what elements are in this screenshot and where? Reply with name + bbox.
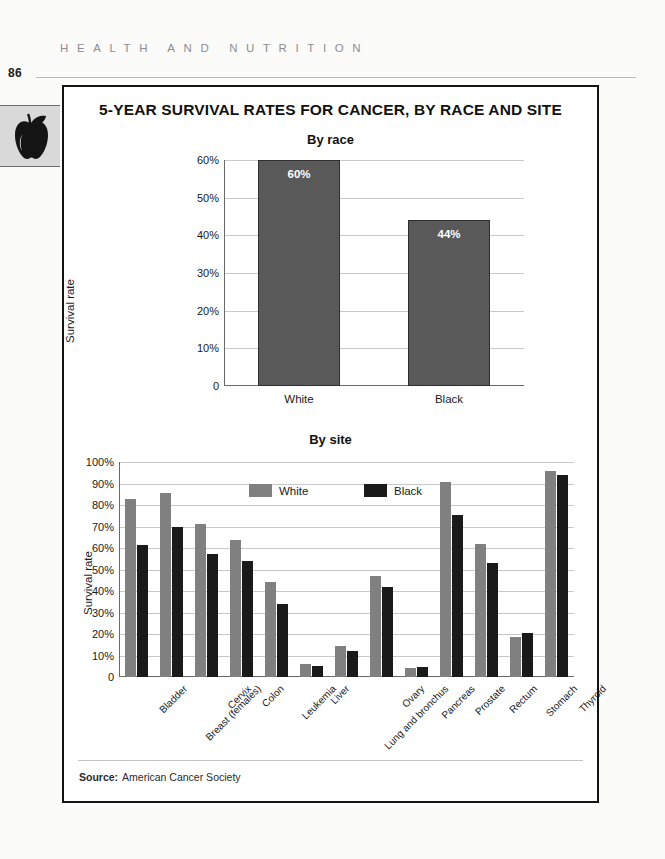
bar <box>510 637 522 677</box>
bar <box>277 604 289 677</box>
bar <box>160 493 172 677</box>
bar <box>347 651 359 677</box>
y-axis-tick-label: 30% <box>92 607 114 619</box>
figure-title: 5-YEAR SURVIVAL RATES FOR CANCER, BY RAC… <box>64 101 597 119</box>
legend-item: White <box>249 484 308 497</box>
bar <box>265 582 277 677</box>
y-axis-tick-label: 30% <box>197 267 219 279</box>
bar: 44% <box>408 220 490 386</box>
legend-item: Black <box>364 484 422 497</box>
y-axis-line <box>224 160 225 386</box>
figure-container: 5-YEAR SURVIVAL RATES FOR CANCER, BY RAC… <box>62 85 599 803</box>
bar <box>417 667 429 677</box>
bar-value-label: 44% <box>409 228 489 240</box>
y-axis-tick-label: 70% <box>92 521 114 533</box>
bar: 60% <box>258 160 340 386</box>
source-rule <box>78 760 583 761</box>
y-axis-tick-label: 0 <box>108 671 114 683</box>
x-axis-category-label: Thyroid <box>576 683 607 714</box>
y-axis-tick-label: 10% <box>92 650 114 662</box>
source-text: American Cancer Society <box>122 771 240 783</box>
bar <box>125 499 137 677</box>
running-head: HEALTH AND NUTRITION <box>60 42 369 54</box>
gridline <box>119 548 574 549</box>
bar <box>452 515 464 677</box>
x-axis-category-label: Prostate <box>472 683 506 717</box>
gridline <box>119 505 574 506</box>
bar <box>545 471 557 677</box>
bar <box>557 475 569 677</box>
page-number: 86 <box>8 66 22 80</box>
gridline <box>119 527 574 528</box>
gridline <box>119 462 574 463</box>
bar <box>405 668 417 677</box>
bar <box>230 540 242 677</box>
gridline <box>119 634 574 635</box>
legend-swatch <box>249 484 272 497</box>
gridline <box>119 613 574 614</box>
bar <box>487 563 499 677</box>
x-axis-category-label: Rectum <box>507 683 539 715</box>
chart-by-site-plot: 010%20%30%40%50%60%70%80%90%100%BladderB… <box>119 462 574 677</box>
x-axis-category-label: White <box>224 393 374 405</box>
x-axis-category-label: Stomach <box>543 683 579 719</box>
y-axis-line <box>119 462 120 677</box>
x-axis-category-label: Bladder <box>157 683 189 715</box>
chart-by-race-ylabel: Survival rate <box>64 279 76 343</box>
bar <box>475 544 487 677</box>
legend-label: White <box>279 485 308 497</box>
bar <box>522 633 534 677</box>
chart-by-race-plot: 010%20%30%40%50%60%60%White44%Black <box>224 160 524 386</box>
bar <box>195 524 207 677</box>
y-axis-tick-label: 50% <box>197 192 219 204</box>
y-axis-tick-label: 60% <box>197 154 219 166</box>
y-axis-tick-label: 50% <box>92 564 114 576</box>
bar <box>137 545 149 677</box>
header-rule <box>36 77 636 78</box>
bar <box>370 576 382 677</box>
y-axis-tick-label: 0 <box>213 380 219 392</box>
bar <box>172 527 184 678</box>
x-axis-category-label: Colon <box>259 683 285 709</box>
x-axis-category-label: Breast (females) <box>203 683 263 743</box>
y-axis-tick-label: 10% <box>197 342 219 354</box>
bar <box>382 587 394 677</box>
gridline <box>119 591 574 592</box>
bar <box>300 664 312 677</box>
legend-label: Black <box>394 485 422 497</box>
y-axis-tick-label: 40% <box>197 229 219 241</box>
source-note: Source:American Cancer Society <box>79 771 241 783</box>
y-axis-tick-label: 20% <box>92 628 114 640</box>
bar <box>335 646 347 677</box>
y-axis-tick-label: 20% <box>197 305 219 317</box>
gridline <box>119 570 574 571</box>
chapter-tab <box>0 105 60 167</box>
y-axis-tick-label: 40% <box>92 585 114 597</box>
bar <box>207 554 219 677</box>
y-axis-tick-label: 80% <box>92 499 114 511</box>
bar <box>312 666 324 677</box>
chart-by-race-title: By race <box>64 132 597 147</box>
gridline <box>119 484 574 485</box>
source-label: Source: <box>79 771 118 783</box>
x-axis-category-label: Black <box>374 393 524 405</box>
bar <box>440 482 452 677</box>
chart-by-site-ylabel: Survival rate <box>82 551 94 615</box>
y-axis-tick-label: 90% <box>92 478 114 490</box>
bar-value-label: 60% <box>259 168 339 180</box>
chart-by-site-title: By site <box>64 432 597 447</box>
y-axis-tick-label: 60% <box>92 542 114 554</box>
y-axis-tick-label: 100% <box>86 456 114 468</box>
bar <box>242 561 254 677</box>
legend-swatch <box>364 484 387 497</box>
